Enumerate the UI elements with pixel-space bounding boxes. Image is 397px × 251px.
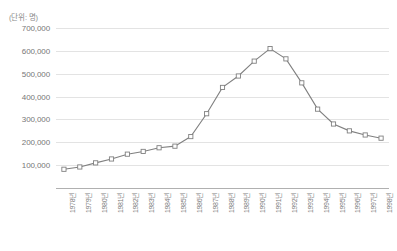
x-axis-tick-label: 1996년: [352, 193, 362, 213]
series-polyline: [64, 49, 381, 170]
x-axis-tick-label: 1981년: [115, 193, 125, 213]
x-axis-tick-label: 1992년: [289, 193, 299, 213]
x-axis-tick-label: 1997년: [368, 193, 378, 213]
x-axis-tick-label: 1983년: [146, 193, 156, 213]
data-point-marker: [62, 167, 66, 171]
line-chart: (단위: 명) 700,000600,000500,000400,000300,…: [0, 0, 397, 251]
x-axis-tick-label: 1985년: [178, 193, 188, 213]
gridline: [56, 188, 389, 189]
x-axis-tick-label: 1980년: [99, 193, 109, 213]
y-axis-tick-label: 600,000: [0, 46, 50, 55]
x-axis-tick-label: 1986년: [194, 193, 204, 213]
data-point-marker: [205, 112, 209, 116]
data-point-marker: [157, 146, 161, 150]
x-axis-tick-label: 1984년: [162, 193, 172, 213]
x-axis-ticks: 1978년1979년1980년1981년1982년1983년1984년1985년…: [56, 190, 389, 251]
x-axis-tick-label: 1990년: [257, 193, 267, 213]
y-axis-tick-label: 100,000: [0, 161, 50, 170]
y-axis-tick-label: 700,000: [0, 24, 50, 33]
data-point-marker: [363, 133, 367, 137]
data-point-marker: [284, 57, 288, 61]
x-axis-tick-label: 1998년: [384, 193, 394, 213]
unit-label: (단위: 명): [9, 11, 38, 22]
data-point-marker: [316, 107, 320, 111]
x-axis-tick-label: 1995년: [337, 193, 347, 213]
x-axis-tick-label: 1991년: [273, 193, 283, 213]
x-axis-tick-label: 1988년: [226, 193, 236, 213]
x-axis-tick-label: 1993년: [305, 193, 315, 213]
y-axis-tick-label: 300,000: [0, 115, 50, 124]
data-point-marker: [189, 134, 193, 138]
x-axis-tick-label: 1987년: [210, 193, 220, 213]
y-axis-tick-label: 400,000: [0, 92, 50, 101]
x-axis-tick-label: 1979년: [83, 193, 93, 213]
data-point-marker: [173, 144, 177, 148]
data-point-marker: [109, 157, 113, 161]
x-axis-tick-label: 1978년: [67, 193, 77, 213]
data-point-marker: [125, 152, 129, 156]
data-point-marker: [268, 46, 272, 50]
data-point-marker: [78, 165, 82, 169]
x-axis-tick-label: 1989년: [241, 193, 251, 213]
y-axis-tick-label: 500,000: [0, 69, 50, 78]
y-axis-tick-label: 200,000: [0, 138, 50, 147]
data-point-marker: [331, 122, 335, 126]
x-axis-tick-label: 1994년: [321, 193, 331, 213]
data-point-marker: [252, 59, 256, 63]
data-point-marker: [236, 74, 240, 78]
data-point-marker: [141, 149, 145, 153]
data-point-marker: [379, 136, 383, 140]
data-point-marker: [220, 85, 224, 89]
data-point-marker: [347, 129, 351, 133]
plot-area: [56, 28, 389, 188]
series-line: [56, 28, 389, 188]
data-point-marker: [300, 81, 304, 85]
data-point-marker: [94, 161, 98, 165]
x-axis-tick-label: 1982년: [130, 193, 140, 213]
